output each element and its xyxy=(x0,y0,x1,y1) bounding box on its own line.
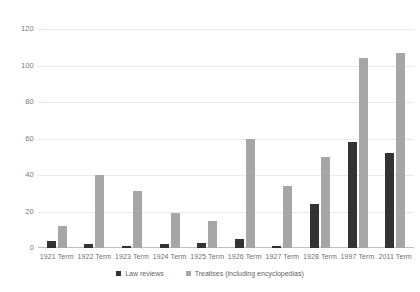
bar-law-reviews xyxy=(122,246,131,248)
bar-group xyxy=(339,29,377,248)
bar-treatises xyxy=(171,213,180,248)
y-tick-label: 20 xyxy=(4,208,34,216)
bar-law-reviews xyxy=(272,246,281,248)
x-axis: 1921 Term1922 Term1923 Term1924 Term1925… xyxy=(38,250,414,264)
y-tick-label: 40 xyxy=(4,171,34,179)
bar-group xyxy=(188,29,226,248)
bar-law-reviews xyxy=(235,239,244,248)
bar-law-reviews xyxy=(348,142,357,248)
bar-group xyxy=(113,29,151,248)
bar-chart: 120 100 80 60 40 20 0 1921 Term1922 Term… xyxy=(0,0,420,292)
legend-swatch-treatises-icon xyxy=(186,271,191,276)
x-tick-label: 1923 Term xyxy=(113,250,151,264)
bar-treatises xyxy=(58,226,67,248)
bar-group xyxy=(151,29,189,248)
bar-group xyxy=(264,29,302,248)
y-tick-label: 100 xyxy=(4,62,34,70)
x-tick-label: 1921 Term xyxy=(38,250,76,264)
bar-group xyxy=(38,29,76,248)
bar-law-reviews xyxy=(197,243,206,248)
bar-law-reviews xyxy=(84,244,93,248)
bar-group xyxy=(226,29,264,248)
x-tick-label: 1997 Term xyxy=(339,250,377,264)
y-tick-label: 0 xyxy=(4,244,34,252)
legend-item[interactable]: Law reviews xyxy=(116,270,164,277)
legend-item[interactable]: Treatises (including encyclopedias) xyxy=(186,270,304,277)
x-tick-label: 1928 Term xyxy=(301,250,339,264)
bar-treatises xyxy=(133,191,142,248)
bar-treatises xyxy=(95,175,104,248)
legend-label: Law reviews xyxy=(125,270,164,277)
legend-swatch-law-reviews-icon xyxy=(116,271,121,276)
bar-group xyxy=(376,29,414,248)
bar-group xyxy=(76,29,114,248)
bar-law-reviews xyxy=(310,204,319,248)
bar-law-reviews xyxy=(385,153,394,248)
x-tick-label: 1925 Term xyxy=(188,250,226,264)
bar-treatises xyxy=(208,221,217,248)
bar-treatises xyxy=(396,53,405,248)
bar-treatises xyxy=(321,157,330,248)
legend-label: Treatises (including encyclopedias) xyxy=(195,270,304,277)
x-tick-label: 1924 Term xyxy=(151,250,189,264)
y-tick-label: 120 xyxy=(4,25,34,33)
x-tick-label: 1927 Term xyxy=(264,250,302,264)
bar-group xyxy=(301,29,339,248)
x-tick-label: 1922 Term xyxy=(76,250,114,264)
bars-layer xyxy=(38,29,414,248)
y-tick-label: 80 xyxy=(4,98,34,106)
x-tick-label: 2011 Term xyxy=(376,250,414,264)
bar-treatises xyxy=(283,186,292,248)
chart-legend: Law reviewsTreatises (including encyclop… xyxy=(0,270,420,277)
bar-law-reviews xyxy=(160,244,169,248)
bar-treatises xyxy=(246,139,255,249)
x-tick-label: 1926 Term xyxy=(226,250,264,264)
y-tick-label: 60 xyxy=(4,135,34,143)
y-axis: 120 100 80 60 40 20 0 xyxy=(0,29,34,248)
bar-law-reviews xyxy=(47,241,56,248)
bar-treatises xyxy=(359,58,368,248)
